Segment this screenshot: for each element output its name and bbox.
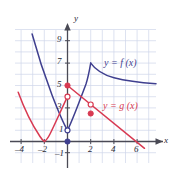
x-tick-label-2: 2: [88, 145, 93, 154]
x-axis-name: x: [164, 136, 168, 145]
graph-figure: y x 9 7 5 3 1 –1 –4 –2 2 4 6 y = f (x) y…: [0, 0, 176, 186]
marker-f-closed-0-0: [65, 139, 70, 144]
x-tick-label-6: 6: [134, 145, 139, 154]
y-tick-label-9: 9: [57, 35, 62, 44]
y-axis-arrow: [64, 23, 70, 31]
x-axis-arrow: [156, 138, 164, 144]
coordinate-plane-svg: [0, 0, 176, 186]
y-tick-label-3: 3: [57, 102, 62, 111]
marker-g-closed-2-2: [88, 111, 93, 116]
y-tick-label-5: 5: [57, 80, 62, 89]
marker-g-open-0-4: [65, 94, 70, 99]
curve-label-f: y = f (x): [104, 58, 137, 68]
x-tick-label-4: 4: [111, 145, 116, 154]
curve-label-g: y = g (x): [103, 101, 138, 111]
y-axis-name: y: [74, 14, 78, 23]
y-tick-label-neg1: –1: [55, 149, 64, 158]
y-tick-label-7: 7: [57, 57, 62, 66]
marker-g-closed-0-5: [65, 83, 70, 88]
curve-f-left-branch: [32, 34, 67, 130]
marker-g-open-2-3: [88, 102, 93, 107]
marker-f-open-0-1: [65, 128, 70, 133]
x-tick-label-neg4: –4: [15, 145, 24, 154]
y-tick-label-1: 1: [59, 125, 64, 134]
x-tick-label-neg2: –2: [38, 145, 47, 154]
